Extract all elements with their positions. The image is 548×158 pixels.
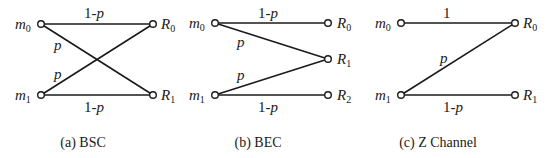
node-r1 — [512, 92, 519, 99]
node-m1 — [38, 92, 45, 99]
bec-diagram: m0 m1 R0 R1 R2 1-p p p 1-p (b) BEC — [189, 5, 351, 151]
label-r2: R2 — [336, 87, 351, 105]
edge-label-cross-1: p — [53, 37, 62, 53]
caption-bsc: (a) BSC — [60, 135, 106, 151]
node-m0 — [212, 20, 219, 27]
node-r1 — [325, 56, 332, 63]
edge-label-bottom: 1-p — [258, 99, 279, 115]
bsc-diagram: m0 m1 R0 R1 1-p p p 1-p (a) BSC — [15, 5, 175, 151]
caption-z-channel: (c) Z Channel — [399, 135, 477, 151]
edge-label-top: 1 — [443, 5, 451, 21]
edge-label-cross-2: p — [236, 67, 245, 83]
label-m0: m0 — [15, 16, 31, 34]
label-m1: m1 — [15, 87, 31, 105]
node-m0 — [38, 21, 45, 28]
edge-label-top: 1-p — [84, 5, 105, 21]
label-m0: m0 — [375, 15, 391, 33]
edge-label-cross: p — [439, 50, 448, 66]
label-r0: R0 — [336, 15, 351, 33]
edge-m1-r0 — [401, 23, 515, 95]
node-r2 — [325, 92, 332, 99]
channel-diagrams: m0 m1 R0 R1 1-p p p 1-p (a) BSC m0 m1 R0… — [0, 0, 548, 158]
node-r0 — [325, 20, 332, 27]
node-m1 — [398, 92, 405, 99]
label-r1: R1 — [160, 87, 175, 105]
node-r1 — [150, 92, 157, 99]
edge-label-top: 1-p — [258, 5, 279, 21]
label-r1: R1 — [336, 51, 351, 69]
label-r0: R0 — [522, 15, 537, 33]
edge-m1-r1 — [215, 59, 328, 95]
edge-label-bottom: 1-p — [443, 99, 464, 115]
edge-label-cross-2: p — [53, 66, 62, 82]
node-m1 — [212, 92, 219, 99]
node-m0 — [398, 20, 405, 27]
node-r0 — [150, 21, 157, 28]
label-m1: m1 — [375, 87, 391, 105]
label-r1: R1 — [522, 87, 537, 105]
caption-bec: (b) BEC — [234, 135, 281, 151]
edge-label-cross-1: p — [236, 34, 245, 50]
label-m0: m0 — [189, 15, 205, 33]
node-r0 — [512, 20, 519, 27]
z-channel-diagram: m0 m1 R0 R1 1 p 1-p (c) Z Channel — [375, 5, 537, 151]
edge-m0-r1 — [215, 23, 328, 59]
edge-label-bottom: 1-p — [84, 99, 105, 115]
label-r0: R0 — [160, 16, 175, 34]
label-m1: m1 — [189, 87, 205, 105]
